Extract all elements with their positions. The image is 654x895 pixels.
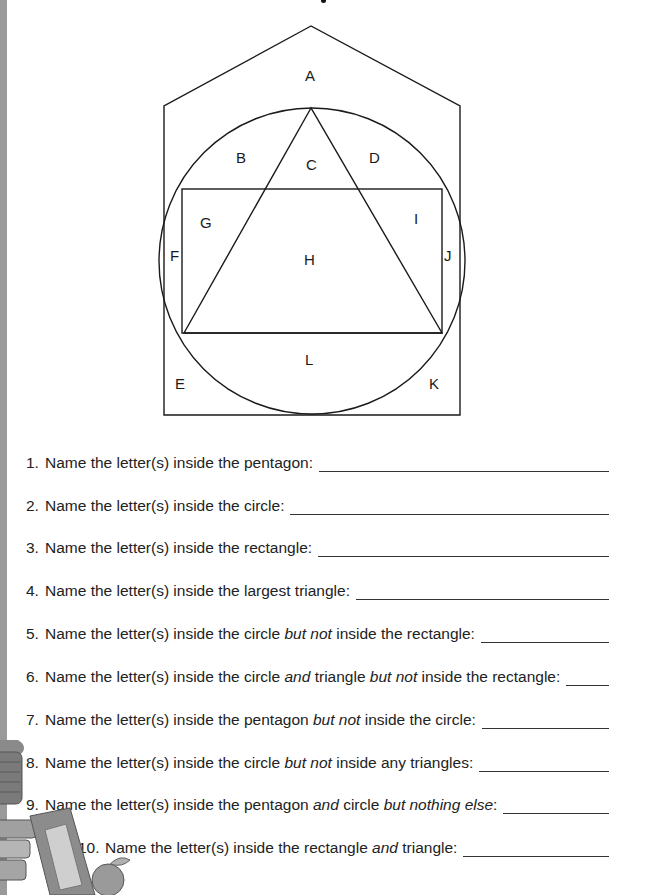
question-text-part: circle xyxy=(339,796,384,813)
region-label-k: K xyxy=(429,375,439,392)
question-number: 3. xyxy=(26,539,42,557)
question-text: Name the letter(s) inside the largest tr… xyxy=(45,582,350,600)
question-item: 6.Name the letter(s) inside the circle a… xyxy=(26,668,609,686)
books-basket-illustration xyxy=(0,740,140,895)
question-number: 2. xyxy=(26,497,42,515)
question-text-part: Name the letter(s) inside the pentagon: xyxy=(45,454,313,471)
region-label-d: D xyxy=(369,149,380,166)
shapes-figure: A B C D E F G H I J K L xyxy=(0,0,654,440)
question-item: 3.Name the letter(s) inside the rectangl… xyxy=(26,539,609,557)
region-label-a: A xyxy=(305,67,315,84)
region-label-j: J xyxy=(444,247,452,264)
question-text: Name the letter(s) inside the circle and… xyxy=(45,668,560,686)
question-text-part: inside the rectangle: xyxy=(332,625,475,642)
answer-blank[interactable] xyxy=(479,757,609,772)
book-stack-icon xyxy=(0,808,95,895)
question-item: 7.Name the letter(s) inside the pentagon… xyxy=(26,711,609,729)
answer-blank[interactable] xyxy=(566,671,609,686)
question-number: 6. xyxy=(26,668,42,686)
triangle-shape xyxy=(184,108,442,333)
answer-blank[interactable] xyxy=(319,457,609,472)
question-item: 2.Name the letter(s) inside the circle: xyxy=(26,497,609,515)
question-text-part: triangle xyxy=(310,668,369,685)
question-text-part: Name the letter(s) inside the pentagon xyxy=(45,711,313,728)
question-text-part: Name the letter(s) inside the largest tr… xyxy=(45,582,350,599)
question-text-part: triangle: xyxy=(398,839,457,856)
question-text-part: Name the letter(s) inside the circle xyxy=(45,668,284,685)
answer-blank[interactable] xyxy=(356,585,609,600)
question-item: 1.Name the letter(s) inside the pentagon… xyxy=(26,454,609,472)
question-item: 4.Name the letter(s) inside the largest … xyxy=(26,582,609,600)
question-text: Name the letter(s) inside the rectangle: xyxy=(45,539,312,557)
apple-icon xyxy=(92,858,130,895)
answer-blank[interactable] xyxy=(463,842,609,857)
answer-blank[interactable] xyxy=(482,714,609,729)
emphasis-text: but not xyxy=(284,754,331,771)
emphasis-text: and xyxy=(372,839,398,856)
question-text: Name the letter(s) inside the pentagon: xyxy=(45,454,313,472)
region-label-b: B xyxy=(236,149,246,166)
question-text-part: inside the circle: xyxy=(360,711,475,728)
question-text-part: Name the letter(s) inside the circle: xyxy=(45,497,284,514)
basket-icon xyxy=(0,740,36,804)
question-text: Name the letter(s) inside the pentagon b… xyxy=(45,711,476,729)
region-label-h: H xyxy=(304,251,315,268)
emphasis-text: but not xyxy=(313,711,360,728)
emphasis-text: but nothing else xyxy=(384,796,493,813)
question-text: Name the letter(s) inside the circle: xyxy=(45,497,284,515)
question-text-part: inside the rectangle: xyxy=(417,668,560,685)
region-label-l: L xyxy=(305,351,313,368)
question-item: 10.Name the letter(s) inside the rectang… xyxy=(78,839,609,857)
region-label-f: F xyxy=(170,247,179,264)
region-label-e: E xyxy=(175,375,185,392)
emphasis-text: but not xyxy=(370,668,417,685)
question-text-part: inside any triangles: xyxy=(332,754,473,771)
answer-blank[interactable] xyxy=(290,500,609,515)
answer-blank[interactable] xyxy=(318,542,609,557)
question-text: Name the letter(s) inside the circle but… xyxy=(45,625,475,643)
emphasis-text: and xyxy=(284,668,310,685)
question-number: 5. xyxy=(26,625,42,643)
question-number: 1. xyxy=(26,454,42,472)
question-text-part: Name the letter(s) inside the rectangle xyxy=(105,839,372,856)
region-label-g: G xyxy=(200,214,212,231)
region-label-i: I xyxy=(414,210,418,227)
answer-blank[interactable] xyxy=(481,628,609,643)
question-text: Name the letter(s) inside the rectangle … xyxy=(105,839,457,857)
question-number: 4. xyxy=(26,582,42,600)
question-text-part: : xyxy=(493,796,497,813)
emphasis-text: but not xyxy=(284,625,331,642)
question-number: 7. xyxy=(26,711,42,729)
region-label-c: C xyxy=(306,156,317,173)
question-text-part: Name the letter(s) inside the rectangle: xyxy=(45,539,312,556)
emphasis-text: and xyxy=(313,796,339,813)
question-item: 5.Name the letter(s) inside the circle b… xyxy=(26,625,609,643)
answer-blank[interactable] xyxy=(503,799,609,814)
question-text-part: Name the letter(s) inside the circle xyxy=(45,625,284,642)
